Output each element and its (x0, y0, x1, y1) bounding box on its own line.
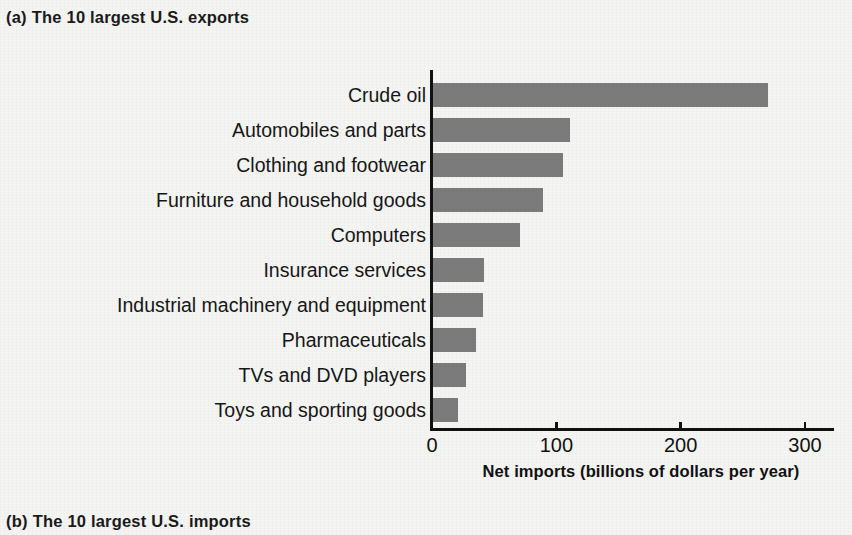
x-tick-label: 0 (426, 434, 437, 457)
x-tick-mark (679, 422, 682, 431)
table-row: Furniture and household goods (0, 183, 852, 218)
table-row: Toys and sporting goods (0, 393, 852, 428)
bar-rows: Crude oil Automobiles and parts Clothing… (0, 78, 852, 428)
bar-fill (432, 258, 484, 282)
table-row: Pharmaceuticals (0, 323, 852, 358)
panel-b-tag: (b) (6, 512, 28, 530)
x-tick-label: 300 (788, 434, 821, 457)
panel-b-caption: (b)The 10 largest U.S. imports (6, 512, 251, 531)
bar-track (432, 293, 483, 317)
x-tick-mark (431, 422, 434, 431)
table-row: Clothing and footwear (0, 148, 852, 183)
table-row: Computers (0, 218, 852, 253)
bar-fill (432, 153, 563, 177)
panel-a-caption: (a)The 10 largest U.S. exports (6, 8, 249, 27)
bar-track (432, 258, 484, 282)
bar-category-label: Furniture and household goods (156, 183, 426, 218)
bar-fill (432, 363, 466, 387)
bar-category-label: Automobiles and parts (232, 113, 426, 148)
bar-track (432, 153, 563, 177)
panel-a-title: The 10 largest U.S. exports (32, 8, 249, 26)
bar-fill (432, 118, 570, 142)
bar-chart: Crude oil Automobiles and parts Clothing… (0, 70, 852, 430)
figure-page: (a)The 10 largest U.S. exports Crude oil… (0, 0, 852, 535)
table-row: Crude oil (0, 78, 852, 113)
table-row: Industrial machinery and equipment (0, 288, 852, 323)
bar-track (432, 398, 458, 422)
table-row: Automobiles and parts (0, 113, 852, 148)
bar-category-label: Toys and sporting goods (215, 393, 426, 428)
x-axis-line (430, 428, 834, 431)
bar-category-label: Computers (331, 218, 426, 253)
bar-track (432, 363, 466, 387)
bar-track (432, 223, 520, 247)
table-row: Insurance services (0, 253, 852, 288)
bar-fill (432, 188, 543, 212)
bar-track (432, 118, 570, 142)
x-axis-title: Net imports (billions of dollars per yea… (432, 462, 850, 481)
bar-fill (432, 83, 768, 107)
bar-track (432, 188, 543, 212)
bar-category-label: TVs and DVD players (239, 358, 427, 393)
bar-category-label: Clothing and footwear (236, 148, 426, 183)
bar-fill (432, 398, 458, 422)
bar-category-label: Insurance services (263, 253, 426, 288)
x-tick-label: 100 (540, 434, 573, 457)
panel-b-title: The 10 largest U.S. imports (33, 512, 251, 530)
bar-fill (432, 328, 476, 352)
bar-track (432, 328, 476, 352)
bar-category-label: Crude oil (348, 78, 426, 113)
bar-category-label: Industrial machinery and equipment (117, 288, 426, 323)
x-tick-mark (804, 422, 807, 431)
x-tick-mark (555, 422, 558, 431)
bar-category-label: Pharmaceuticals (282, 323, 426, 358)
bar-track (432, 83, 768, 107)
bar-fill (432, 223, 520, 247)
table-row: TVs and DVD players (0, 358, 852, 393)
panel-a-tag: (a) (6, 8, 27, 26)
bar-fill (432, 293, 483, 317)
y-axis-line (430, 70, 433, 428)
x-tick-label: 200 (664, 434, 697, 457)
